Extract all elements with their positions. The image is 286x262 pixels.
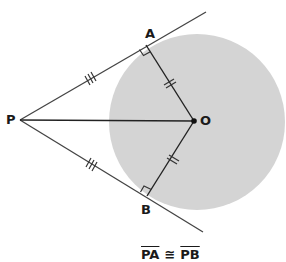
point-label-o: O <box>200 114 211 127</box>
point-label-p: P <box>6 113 16 126</box>
segment-pb-label: PB <box>180 247 199 262</box>
segment-po <box>20 120 194 121</box>
congruent-symbol: ≅ <box>164 247 175 262</box>
point-label-a: A <box>145 27 155 40</box>
triple-tick-mark-pa <box>85 72 96 85</box>
segment-pa-label: PA <box>141 247 159 262</box>
congruence-caption: PA≅PB <box>141 248 200 261</box>
circle-o <box>109 34 285 210</box>
center-point-icon <box>191 118 197 124</box>
triple-tick-mark-pb <box>86 158 97 171</box>
point-label-b: B <box>141 203 151 216</box>
